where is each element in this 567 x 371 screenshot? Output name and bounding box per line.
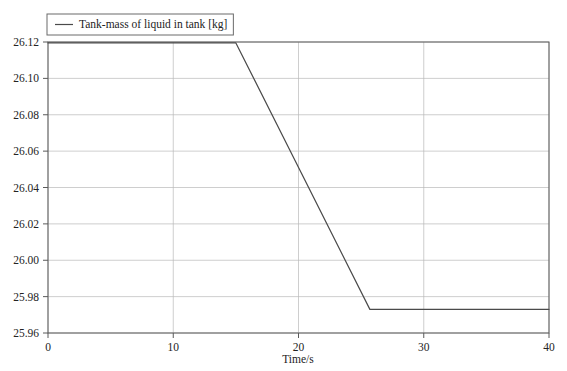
y-tick-label: 26.08 xyxy=(13,109,39,121)
y-axis-ticks xyxy=(43,42,48,333)
x-axis-ticks xyxy=(48,333,549,338)
x-tick-label: 40 xyxy=(543,341,555,353)
y-tick-label: 26.00 xyxy=(13,254,39,266)
x-tick-label: 10 xyxy=(168,341,180,353)
x-axis-tick-labels: 010203040 xyxy=(45,341,555,353)
chart-legend[interactable]: Tank-mass of liquid in tank [kg] xyxy=(47,14,233,35)
x-tick-label: 0 xyxy=(45,341,51,353)
y-tick-label: 26.12 xyxy=(13,36,39,48)
y-axis-tick-labels: 25.9625.9826.0026.0226.0426.0626.0826.10… xyxy=(13,36,39,339)
y-tick-label: 26.10 xyxy=(13,72,39,84)
x-tick-label: 20 xyxy=(293,341,305,353)
legend-item-label: Tank-mass of liquid in tank [kg] xyxy=(79,18,227,31)
line-chart: 25.9625.9826.0026.0226.0426.0626.0826.10… xyxy=(0,0,567,371)
y-tick-label: 26.04 xyxy=(13,182,39,194)
y-tick-label: 26.06 xyxy=(13,145,39,157)
x-tick-label: 30 xyxy=(418,341,430,353)
y-tick-label: 25.98 xyxy=(13,291,39,303)
y-tick-label: 25.96 xyxy=(13,327,39,339)
y-tick-label: 26.02 xyxy=(13,218,39,230)
x-axis-title: Time/s xyxy=(282,353,314,365)
chart-container: 25.9625.9826.0026.0226.0426.0626.0826.10… xyxy=(0,0,567,371)
